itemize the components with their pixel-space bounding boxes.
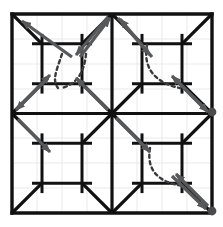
dot-east-midpoint [208,108,217,117]
lattice-layer [12,14,212,213]
dot-southeast-corner [208,207,217,216]
lattice-svg [0,0,223,227]
lattice-figure [0,0,223,227]
